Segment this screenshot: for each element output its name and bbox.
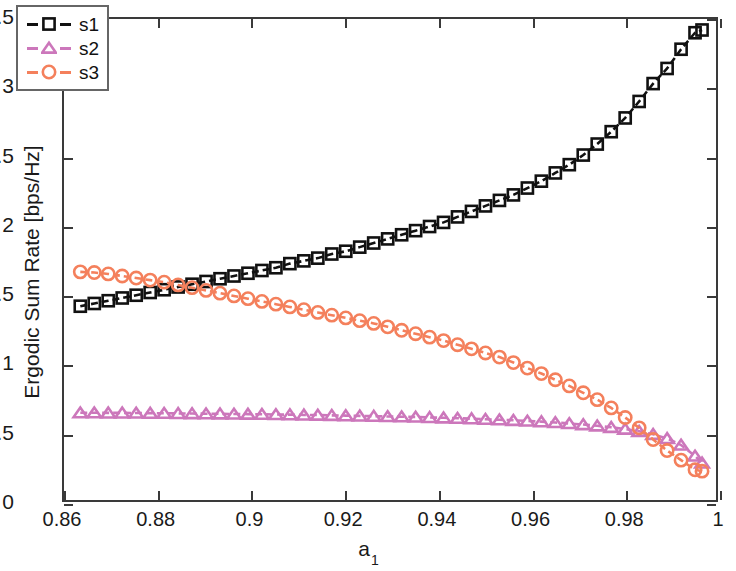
y-axis-tick-label: 1 xyxy=(2,351,14,375)
data-point-s2 xyxy=(367,411,381,421)
x-axis-tick xyxy=(626,491,628,500)
x-axis-tick xyxy=(439,19,441,28)
data-point-s2 xyxy=(171,408,185,418)
legend-item-s2[interactable]: s2 xyxy=(24,36,99,60)
x-axis-tick-label: 0.86 xyxy=(43,508,82,531)
x-axis-tick xyxy=(345,19,347,28)
legend-label: s2 xyxy=(79,39,99,58)
legend-dash-left-icon xyxy=(27,23,38,26)
data-point-s2 xyxy=(269,409,283,419)
legend-marker-triangle-icon xyxy=(41,40,57,56)
x-axis-tick-label: 0.92 xyxy=(324,508,363,531)
chart-figure: 00.511.522.533.50.860.880.90.920.940.960… xyxy=(0,0,736,571)
x-axis-tick xyxy=(64,491,66,500)
x-axis-tick xyxy=(720,19,722,28)
y-axis-tick-label: 0 xyxy=(2,490,14,514)
x-axis-tick xyxy=(626,19,628,28)
y-axis-tick xyxy=(64,365,73,367)
data-point-s2 xyxy=(213,409,227,419)
series-s3 xyxy=(74,266,708,478)
y-axis-tick xyxy=(707,435,716,437)
legend-marker-square-icon xyxy=(41,16,57,32)
y-axis-tick-label: 2.5 xyxy=(0,144,14,168)
y-axis-tick xyxy=(707,158,716,160)
y-axis-tick xyxy=(707,504,716,506)
x-axis-title: a1 xyxy=(0,537,736,564)
data-point-s2 xyxy=(157,408,171,418)
x-axis-title-subscript: 1 xyxy=(371,552,379,568)
data-point-s2 xyxy=(618,424,632,434)
x-axis-tick xyxy=(158,491,160,500)
y-axis-tick-label: 2 xyxy=(2,213,14,237)
y-axis-tick-label: 0.5 xyxy=(0,421,14,445)
y-axis-tick xyxy=(64,504,73,506)
x-axis-title-base: a xyxy=(358,537,370,560)
chart-svg xyxy=(64,19,716,500)
data-point-s2 xyxy=(311,410,325,420)
x-axis-tick xyxy=(439,491,441,500)
x-axis-tick xyxy=(533,491,535,500)
y-axis-tick xyxy=(64,227,73,229)
data-point-s2 xyxy=(423,412,437,422)
data-point-s2 xyxy=(563,418,577,428)
series-s1 xyxy=(75,24,708,311)
data-point-s2 xyxy=(521,416,535,426)
data-point-s3 xyxy=(521,362,533,374)
legend-marker-circle-icon xyxy=(41,64,57,80)
y-axis-tick-label: 3 xyxy=(2,74,14,98)
x-axis-tick xyxy=(720,491,722,500)
x-axis-tick-label: 1 xyxy=(712,508,723,531)
x-axis-tick xyxy=(533,19,535,28)
y-axis-tick xyxy=(707,88,716,90)
y-axis-tick xyxy=(707,227,716,229)
x-axis-tick xyxy=(158,19,160,28)
y-axis-title: Ergodic Sum Rate [bps/Hz] xyxy=(20,72,44,472)
y-axis-tick xyxy=(707,296,716,298)
x-axis-tick xyxy=(345,491,347,500)
legend-dash-right-icon xyxy=(60,71,71,74)
data-point-s2 xyxy=(115,408,129,418)
x-axis-tick-label: 0.94 xyxy=(417,508,456,531)
series-line-s1 xyxy=(80,30,702,306)
y-axis-tick-label: 3.5 xyxy=(0,5,14,29)
x-axis-tick-label: 0.9 xyxy=(236,508,264,531)
data-point-s3 xyxy=(549,374,561,386)
legend-item-s1[interactable]: s1 xyxy=(24,12,99,36)
series-s2 xyxy=(74,407,709,467)
data-point-s2 xyxy=(660,433,674,443)
y-axis-tick xyxy=(707,365,716,367)
legend-dash-left-icon xyxy=(27,47,38,50)
x-axis-tick-label: 0.88 xyxy=(136,508,175,531)
legend-dash-left-icon xyxy=(27,71,38,74)
legend-label: s3 xyxy=(79,63,99,82)
data-point-s2 xyxy=(409,412,423,422)
y-axis-tick xyxy=(707,19,716,21)
data-point-s3 xyxy=(661,444,673,456)
data-point-s1 xyxy=(536,176,547,187)
data-point-s1 xyxy=(466,206,477,217)
y-axis-tick-label: 1.5 xyxy=(0,282,14,306)
y-axis-tick xyxy=(64,435,73,437)
y-axis-tick xyxy=(64,158,73,160)
data-point-s2 xyxy=(465,413,479,423)
plot-area xyxy=(62,17,718,502)
x-axis-tick-label: 0.96 xyxy=(511,508,550,531)
x-axis-tick-label: 0.98 xyxy=(605,508,644,531)
legend-item-s3[interactable]: s3 xyxy=(24,60,99,84)
legend-dash-right-icon xyxy=(60,23,71,26)
legend-label: s1 xyxy=(79,15,99,34)
x-axis-tick xyxy=(251,491,253,500)
x-axis-tick xyxy=(251,19,253,28)
data-point-s3 xyxy=(591,394,603,406)
y-axis-tick xyxy=(64,296,73,298)
legend-dash-right-icon xyxy=(60,47,71,50)
series-line-s3 xyxy=(80,272,702,471)
chart-legend: s1s2s3 xyxy=(16,5,109,91)
